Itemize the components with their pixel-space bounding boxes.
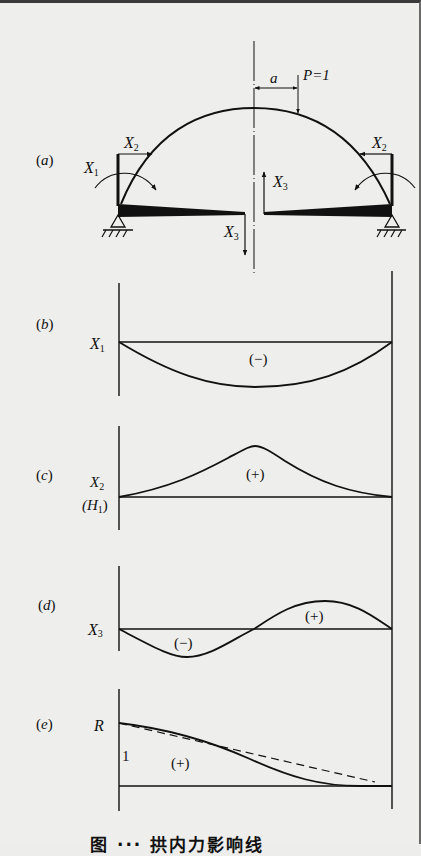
load-label: P=1 <box>302 67 330 83</box>
x2-left-label: X2 <box>123 134 139 153</box>
panel-c-label: (c) <box>36 467 53 484</box>
panel-e-label: (e) <box>36 716 53 733</box>
figure-caption: 图 ··· 拱内力影响线 <box>90 831 410 856</box>
right-pin-support <box>377 215 406 237</box>
influence-line-figure: ((a)a) P=1 a X1 X2 X2 X3 X3 (b) X1 (−) (… <box>0 3 421 847</box>
axis-label-d: X3 <box>87 621 103 639</box>
panel-b-label: (b) <box>36 316 54 333</box>
axis-label-c-alt: (H1) <box>82 497 108 515</box>
panel-a-structure: ((a)a) P=1 a X1 X2 X2 X3 X3 <box>36 41 415 275</box>
ordinate-value-e: 1 <box>122 748 130 764</box>
panel-e-influence-line: (e) R 1 (+) <box>36 716 392 786</box>
linear-reference-dashed <box>119 723 375 782</box>
sign-d-negative: (−) <box>174 635 192 652</box>
x1-left-moment-arrow <box>95 173 156 190</box>
sign-b: (−) <box>249 351 267 368</box>
right-rigid-arm <box>264 204 392 217</box>
axis-label-c: X2 <box>89 474 104 492</box>
arch-curve <box>121 108 390 204</box>
x1-label: X1 <box>83 159 99 178</box>
panel-d-label: (d) <box>38 597 56 614</box>
panel-c-influence-line: (c) X2 (H1) (+) <box>36 446 392 515</box>
sign-d-positive: (+) <box>305 608 323 625</box>
x2-right-label: X2 <box>371 134 387 153</box>
x3-up-label: X3 <box>272 173 288 192</box>
axis-label-e: R <box>93 717 104 734</box>
left-rigid-arm <box>118 204 245 217</box>
panel-b-influence-line: (b) X1 (−) <box>36 316 392 387</box>
distance-label: a <box>270 70 278 86</box>
left-pin-support <box>102 215 133 237</box>
x1-right-moment-arrow <box>355 173 415 190</box>
sign-e: (+) <box>171 755 189 772</box>
axis-label-b: X1 <box>89 335 105 354</box>
panel-a-label: ((a)a) <box>36 152 54 169</box>
x3-down-label: X3 <box>223 223 239 242</box>
panel-d-influence-line: (d) X3 (−) (+) <box>38 597 392 657</box>
sign-c: (+) <box>246 466 264 483</box>
